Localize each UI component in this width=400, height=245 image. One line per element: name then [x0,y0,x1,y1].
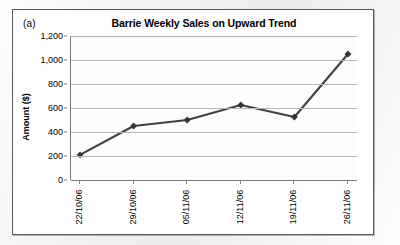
gridline [71,132,357,133]
y-tick-mark [64,156,67,157]
x-tick-label: 29/10/06 [110,186,156,232]
x-tick-label: 26/11/06 [324,186,370,232]
x-tick-label: 19/11/06 [270,186,316,232]
y-axis-tick-labels: 02004006008001,0001,200 [33,36,67,180]
x-tick-label-text: 29/10/06 [128,189,138,224]
y-tick-mark [64,84,67,85]
y-tick-mark [64,180,67,181]
series-line [80,54,348,155]
x-tick-label-text: 05/11/06 [181,190,191,224]
plot-area [70,36,357,180]
x-tick-mark [293,180,294,184]
x-axis-tick-labels: 22/10/0629/10/0605/11/0612/11/0619/11/06… [70,186,356,232]
x-tick-label-text: 19/11/06 [288,190,298,224]
y-tick-mark [64,36,67,37]
y-tick-label: 800 [48,79,63,89]
gridline [71,36,357,37]
gridline [71,60,357,61]
y-tick-label: 1,200 [40,31,63,41]
gridline [71,108,357,109]
x-tick-label-text: 12/11/06 [235,190,245,224]
y-axis-title: Amount ($) [19,72,33,162]
x-tick-mark [240,180,241,184]
plot-wrapper: Amount ($) 02004006008001,0001,200 22/10… [13,10,375,236]
x-tick-mark [133,180,134,184]
x-tick-mark [347,180,348,184]
y-tick-label: 1,000 [40,55,63,65]
gridline [71,156,357,157]
y-tick-label: 200 [48,151,63,161]
y-tick-mark [64,132,67,133]
x-tick-label: 22/10/06 [56,186,102,232]
x-tick-mark [79,180,80,184]
y-tick-label: 400 [48,127,63,137]
x-tick-label-text: 22/10/06 [74,189,84,224]
x-tick-mark [186,180,187,184]
figure-page: (a) Barrie Weekly Sales on Upward Trend … [0,0,400,245]
y-tick-label: 0 [58,175,63,185]
data-point-marker [184,117,191,124]
chart-panel: (a) Barrie Weekly Sales on Upward Trend … [12,9,374,235]
x-tick-label: 12/11/06 [217,186,263,232]
y-tick-label: 600 [48,103,63,113]
gridline [71,84,357,85]
x-tick-label-text: 26/11/06 [342,190,352,224]
x-tick-label: 05/11/06 [163,186,209,232]
y-axis-title-text: Amount ($) [21,93,31,141]
y-tick-mark [64,60,67,61]
y-tick-mark [64,108,67,109]
